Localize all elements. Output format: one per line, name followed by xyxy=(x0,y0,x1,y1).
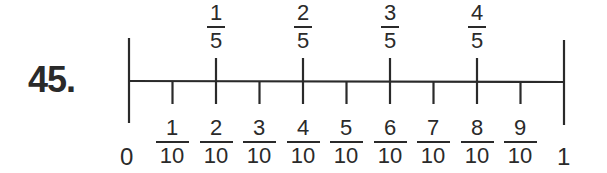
denominator: 10 xyxy=(500,145,540,167)
denominator: 5 xyxy=(196,30,236,52)
denominator: 10 xyxy=(457,145,497,167)
denominator: 5 xyxy=(283,30,323,52)
denominator: 10 xyxy=(152,145,192,167)
label-one: 1 xyxy=(557,145,570,169)
numerator: 7 xyxy=(413,117,453,139)
label-4-5: 4 5 xyxy=(457,2,497,52)
label-5-10: 5 10 xyxy=(326,117,366,167)
label-1-5: 1 5 xyxy=(196,2,236,52)
label-9-10: 9 10 xyxy=(500,117,540,167)
numerator: 2 xyxy=(196,117,236,139)
label-4-10: 4 10 xyxy=(283,117,323,167)
denominator: 5 xyxy=(370,30,410,52)
number-line-axis xyxy=(129,81,564,82)
denominator: 10 xyxy=(239,145,279,167)
denominator: 5 xyxy=(457,30,497,52)
label-6-10: 6 10 xyxy=(370,117,410,167)
label-7-10: 7 10 xyxy=(413,117,453,167)
numerator: 3 xyxy=(370,2,410,24)
label-3-5: 3 5 xyxy=(370,2,410,52)
label-3-10: 3 10 xyxy=(239,117,279,167)
numerator: 3 xyxy=(239,117,279,139)
denominator: 10 xyxy=(413,145,453,167)
numerator: 6 xyxy=(370,117,410,139)
numerator: 1 xyxy=(196,2,236,24)
label-8-10: 8 10 xyxy=(457,117,497,167)
numerator: 9 xyxy=(500,117,540,139)
numerator: 5 xyxy=(326,117,366,139)
denominator: 10 xyxy=(283,145,323,167)
denominator: 10 xyxy=(196,145,236,167)
numerator: 4 xyxy=(283,117,323,139)
denominator: 10 xyxy=(370,145,410,167)
numerator: 4 xyxy=(457,2,497,24)
label-1-10: 1 10 xyxy=(152,117,192,167)
label-zero: 0 xyxy=(120,145,133,169)
numerator: 8 xyxy=(457,117,497,139)
label-2-5: 2 5 xyxy=(283,2,323,52)
numerator: 2 xyxy=(283,2,323,24)
numerator: 1 xyxy=(152,117,192,139)
label-2-10: 2 10 xyxy=(196,117,236,167)
denominator: 10 xyxy=(326,145,366,167)
